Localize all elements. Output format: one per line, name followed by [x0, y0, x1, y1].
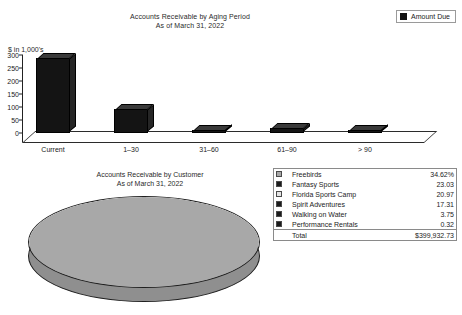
x-axis-label: 61–90: [257, 146, 317, 153]
y-tick-label: 250: [7, 65, 19, 72]
legend-row[interactable]: Performance Rentals0.32: [274, 219, 456, 230]
bar[interactable]: [192, 130, 226, 133]
bar[interactable]: [348, 130, 382, 133]
legend-swatch-cell: [274, 179, 290, 189]
legend-color-swatch-icon: [276, 221, 282, 227]
bar-chart-legend[interactable]: Amount Due: [396, 10, 456, 23]
bar[interactable]: [270, 128, 304, 133]
y-tick-label: 100: [7, 104, 19, 111]
pie-slices: [29, 197, 259, 287]
legend-customer-label: Florida Sports Camp: [290, 189, 393, 199]
legend-row[interactable]: Florida Sports Camp20.97: [274, 189, 456, 199]
bar-side-face: [147, 104, 154, 132]
legend-swatch-cell: [274, 189, 290, 199]
x-axis-label: 31–60: [179, 146, 239, 153]
y-tick-label: 200: [7, 78, 19, 85]
legend-swatch-cell: [274, 169, 290, 179]
legend-total-row: Total$399,932.73: [274, 230, 456, 241]
legend-table-body: Freebirds34.62%Fantasy Sports23.03Florid…: [274, 169, 456, 240]
y-tick-mark: [19, 81, 23, 82]
y-tick-mark: [19, 120, 23, 121]
bar-chart-panel: Accounts Receivable by Aging Period As o…: [0, 0, 462, 162]
legend-row[interactable]: Freebirds34.62%: [274, 169, 456, 179]
legend-row[interactable]: Spirit Adventures17.31: [274, 199, 456, 209]
legend-color-swatch-icon: [276, 181, 282, 187]
bar-chart-title: Accounts Receivable by Aging Period: [40, 12, 340, 21]
x-axis-label: > 90: [335, 146, 395, 153]
legend-swatch-icon: [400, 13, 407, 20]
total-spacer-cell: [274, 230, 290, 241]
legend-percent-value: 34.62%: [393, 169, 456, 179]
legend-percent-value: 23.03: [393, 179, 456, 189]
bar-plot-area: 050100150200250300: [22, 55, 432, 143]
y-tick-mark: [19, 94, 23, 95]
total-label: Total: [290, 230, 393, 241]
legend-swatch-cell: [274, 209, 290, 219]
legend-color-swatch-icon: [276, 191, 282, 197]
total-value: $399,932.73: [393, 230, 456, 241]
bar[interactable]: [114, 109, 148, 133]
y-tick-label: 300: [7, 52, 19, 59]
legend-color-swatch-icon: [276, 201, 282, 207]
bar[interactable]: [36, 58, 70, 133]
report-page: Accounts Receivable by Aging Period As o…: [0, 0, 462, 315]
legend-customer-label: Freebirds: [290, 169, 393, 179]
legend-percent-value: 3.75: [393, 209, 456, 219]
legend-color-swatch-icon: [276, 171, 282, 177]
legend-percent-value: 0.32: [393, 219, 456, 230]
pie-top-face: [28, 196, 260, 288]
legend-customer-label: Spirit Adventures: [290, 199, 393, 209]
pie-chart: [28, 196, 260, 308]
legend-swatch-cell: [274, 219, 290, 230]
legend-color-swatch-icon: [276, 211, 282, 217]
pie-legend-table[interactable]: Freebirds34.62%Fantasy Sports23.03Florid…: [273, 168, 457, 241]
y-tick-mark: [19, 68, 23, 69]
y-tick-mark: [19, 133, 23, 134]
y-tick-mark: [19, 107, 23, 108]
x-axis-label: Current: [23, 146, 83, 153]
legend-customer-label: Walking on Water: [290, 209, 393, 219]
y-tick-label: 50: [11, 117, 19, 124]
bar-side-face: [69, 53, 76, 132]
y-tick-mark: [19, 55, 23, 56]
bar-legend-label: Amount Due: [411, 13, 450, 20]
bar-chart-subtitle: As of March 31, 2022: [40, 21, 340, 30]
legend-table: Freebirds34.62%Fantasy Sports23.03Florid…: [274, 169, 456, 240]
legend-row[interactable]: Walking on Water3.75: [274, 209, 456, 219]
y-tick-label: 150: [7, 91, 19, 98]
legend-swatch-cell: [274, 199, 290, 209]
legend-row[interactable]: Fantasy Sports23.03: [274, 179, 456, 189]
pie-chart-subtitle: As of March 31, 2022: [30, 179, 270, 188]
x-axis-label: 1–30: [101, 146, 161, 153]
legend-customer-label: Performance Rentals: [290, 219, 393, 230]
legend-customer-label: Fantasy Sports: [290, 179, 393, 189]
legend-percent-value: 20.97: [393, 189, 456, 199]
legend-percent-value: 17.31: [393, 199, 456, 209]
pie-chart-title: Accounts Receivable by Customer: [30, 170, 270, 179]
